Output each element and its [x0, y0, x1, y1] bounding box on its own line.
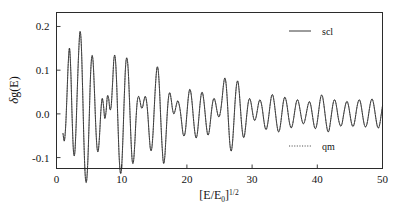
x-tick-label-30: 30 — [247, 173, 259, 185]
y-axis-label: δg(E) — [6, 76, 21, 103]
x-tick-label-50: 50 — [377, 173, 389, 185]
figure-container: 01020304050 -0.10.00.10.2 scl qm δg(E) [… — [0, 0, 401, 215]
x-tick-label-10: 10 — [116, 173, 128, 185]
legend-label-qm: qm — [322, 141, 335, 152]
x-axis-label-open: [E/E — [199, 188, 221, 202]
y-axis-label-body: g(E) — [7, 76, 21, 97]
y-tick-label--0.1: -0.1 — [32, 152, 49, 164]
x-tick-label-0: 0 — [54, 173, 60, 185]
chart-svg: 01020304050 -0.10.00.10.2 scl qm δg(E) [… — [0, 0, 401, 215]
y-tick-label-0.2: 0.2 — [36, 20, 50, 32]
y-tick-label-0.0: 0.0 — [36, 108, 50, 120]
y-tick-label-0.1: 0.1 — [36, 64, 50, 76]
x-axis-label-superscript: 1/2 — [229, 188, 239, 197]
svg-text:δg(E): δg(E) — [6, 76, 21, 103]
x-tick-label-40: 40 — [312, 173, 324, 185]
legend-label-scl: scl — [322, 26, 333, 37]
figure-background — [0, 0, 401, 215]
x-tick-label-20: 20 — [181, 173, 193, 185]
